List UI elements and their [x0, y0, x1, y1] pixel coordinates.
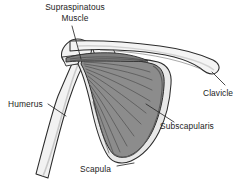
leader-scapula: [117, 163, 134, 166]
label-supraspinatous-line1: Supraspinatous: [30, 2, 120, 13]
label-supraspinatous-line2: Muscle: [30, 13, 120, 24]
anatomy-figure: Supraspinatous Muscle Clavicle Humerus S…: [0, 0, 244, 188]
label-subscapularis: Subscapularis: [160, 121, 214, 132]
label-clavicle: Clavicle: [203, 88, 233, 99]
label-humerus: Humerus: [8, 99, 43, 110]
label-supraspinatous-muscle: Supraspinatous Muscle: [30, 2, 120, 23]
leader-clavicle: [212, 72, 225, 85]
label-scapula: Scapula: [80, 164, 111, 175]
